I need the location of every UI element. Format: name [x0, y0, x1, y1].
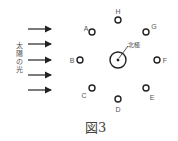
label-A: A: [84, 25, 89, 32]
moon-E: [143, 85, 149, 91]
north-pole-dot: [117, 59, 120, 62]
label-B: B: [70, 57, 75, 64]
label-H: H: [115, 8, 120, 15]
sunlight-arrows: [28, 29, 51, 90]
label-D: D: [115, 106, 120, 113]
label-F: F: [163, 57, 167, 64]
label-C: C: [81, 92, 86, 99]
moon-F: [154, 57, 160, 63]
north-pole-label: 北極: [128, 40, 140, 49]
label-E: E: [150, 94, 155, 101]
sunlight-label: 太陽の光: [15, 42, 23, 74]
label-G: G: [151, 23, 156, 30]
moon-A: [89, 29, 95, 35]
earth: [110, 46, 128, 68]
moon-G: [143, 29, 149, 35]
moon-D: [115, 96, 121, 102]
figure-caption: 図3: [85, 117, 106, 136]
moon-C: [89, 85, 95, 91]
moon-B: [77, 57, 83, 63]
moon-H: [115, 17, 121, 23]
